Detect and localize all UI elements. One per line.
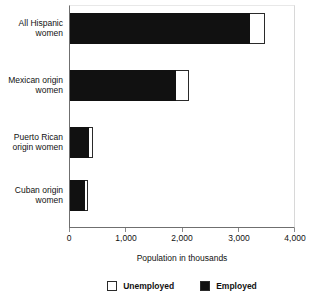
bar-chart: All Hispanic women Mexican origin women … (0, 0, 311, 306)
category-label-cuban-origin-women: Cuban origin women (0, 185, 63, 205)
x-tick-label-4000: 4,000 (275, 233, 311, 243)
x-tick-label-1000: 1,000 (106, 233, 146, 243)
legend-swatch-employed-icon (200, 281, 210, 291)
bar-employed-segment (70, 13, 250, 44)
x-tick-mark (294, 228, 295, 232)
legend-swatch-unemployed-icon (107, 281, 117, 291)
x-tick-mark (238, 228, 239, 232)
category-label-all-hispanic-women: All Hispanic women (0, 18, 63, 38)
x-tick-mark (182, 228, 183, 232)
chart-legend: Unemployed Employed (69, 281, 295, 291)
category-label-mexican-origin-women: Mexican origin women (0, 75, 63, 95)
x-tick-label-2000: 2,000 (162, 233, 202, 243)
legend-label-employed: Employed (216, 281, 257, 291)
legend-item-unemployed: Unemployed (107, 281, 174, 291)
x-tick-mark (125, 228, 126, 232)
category-label-puerto-rican-origin-women: Puerto Rican origin women (0, 132, 63, 152)
bar-employed-segment (70, 127, 89, 158)
plot-area (69, 5, 295, 228)
x-axis-title: Population in thousands (69, 253, 295, 263)
x-tick-mark (69, 228, 70, 232)
bar-employed-segment (70, 180, 85, 211)
legend-label-unemployed: Unemployed (123, 281, 174, 291)
x-tick-label-0: 0 (49, 233, 89, 243)
x-tick-label-3000: 3,000 (219, 233, 259, 243)
legend-item-employed: Employed (200, 281, 257, 291)
bar-employed-segment (70, 70, 176, 101)
